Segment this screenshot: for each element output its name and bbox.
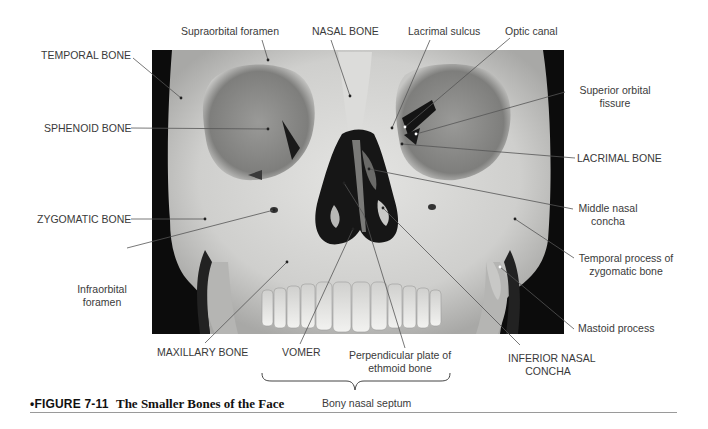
label-optic-canal: Optic canal bbox=[505, 25, 558, 38]
septum-brace bbox=[262, 373, 450, 390]
label-maxillary-bone: MAXILLARY BONE bbox=[157, 346, 248, 359]
label-superior-orbital-fissure: Superior orbital fissure bbox=[575, 84, 655, 110]
label-middle-nasal-concha: Middle nasal concha bbox=[575, 202, 641, 228]
label-vomer: VOMER bbox=[282, 346, 321, 359]
label-nasal-bone: NASAL BONE bbox=[312, 25, 379, 38]
label-supraorbital-foramen: Supraorbital foramen bbox=[181, 25, 279, 38]
label-temporal-bone: TEMPORAL BONE bbox=[41, 49, 131, 62]
label-inferior-nasal-concha: INFERIOR NASAL CONCHA bbox=[508, 352, 588, 378]
label-infraorbital-foramen: Infraorbital foramen bbox=[74, 283, 130, 309]
label-zygomatic-bone: ZYGOMATIC BONE bbox=[37, 213, 131, 226]
figure-caption: •FIGURE 7-11 The Smaller Bones of the Fa… bbox=[30, 396, 284, 412]
label-sphenoid-bone: SPHENOID BONE bbox=[44, 122, 132, 135]
label-mastoid-process: Mastoid process bbox=[578, 322, 654, 335]
figure-number: •FIGURE 7-11 bbox=[30, 397, 109, 411]
label-lacrimal-bone: LACRIMAL BONE bbox=[577, 152, 662, 165]
label-temporal-process: Temporal process of zygomatic bone bbox=[576, 252, 676, 278]
figure-title: The Smaller Bones of the Face bbox=[116, 396, 284, 411]
label-perpendicular-plate: Perpendicular plate of ethmoid bone bbox=[338, 349, 462, 375]
figure-7-11: Supraorbital foramen NASAL BONE Lacrimal… bbox=[0, 0, 708, 429]
label-bony-nasal-septum: Bony nasal septum bbox=[322, 397, 411, 410]
label-lacrimal-sulcus: Lacrimal sulcus bbox=[408, 25, 480, 38]
caption-rule bbox=[30, 412, 677, 413]
